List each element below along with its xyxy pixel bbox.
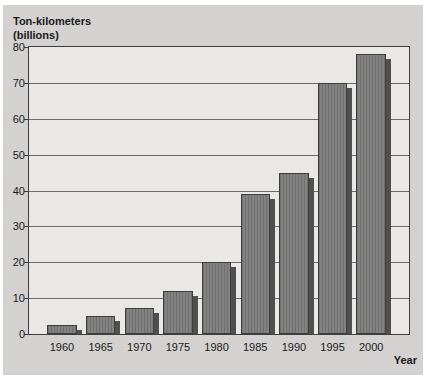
y-tick-label: 10: [3, 291, 25, 305]
chart-title: Ton-kilometers (billions): [13, 14, 91, 42]
y-tick-label: 30: [3, 219, 25, 233]
bar: [318, 83, 348, 334]
bar: [163, 291, 193, 334]
y-tick-label: 80: [3, 40, 25, 54]
plot-area: [28, 46, 410, 335]
chart-title-line1: Ton-kilometers: [13, 14, 91, 28]
bar: [47, 325, 77, 334]
y-tick-label: 0: [3, 327, 25, 341]
y-tick-label: 60: [3, 112, 25, 126]
bar: [86, 316, 116, 334]
chart-panel: Ton-kilometers (billions) Year 010203040…: [3, 5, 423, 375]
y-tick-label: 20: [3, 255, 25, 269]
bar: [125, 308, 155, 334]
gridline: [29, 83, 409, 84]
y-tick-label: 40: [3, 184, 25, 198]
x-axis-title: Year: [394, 354, 417, 366]
bar: [202, 262, 232, 334]
y-tick-label: 50: [3, 148, 25, 162]
bar: [241, 194, 271, 334]
x-tick-label: 2000: [346, 341, 396, 353]
y-tick-label: 70: [3, 76, 25, 90]
bar: [279, 173, 309, 334]
bar: [356, 54, 386, 334]
